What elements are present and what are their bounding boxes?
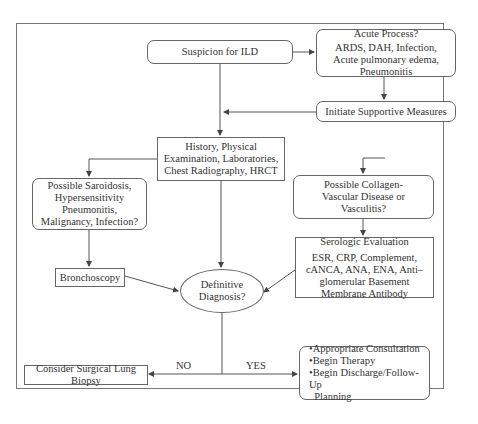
acute-process-node: Acute Process? ARDS, DAH, Infection, Acu… — [316, 29, 456, 77]
serologic-evaluation-node: Serologic Evaluation ESR, CRP, Complemen… — [295, 237, 434, 298]
serologic-evaluation-title: Serologic Evaluation — [320, 236, 408, 248]
acute-process-body: ARDS, DAH, Infection, Acute pulmonary ed… — [323, 42, 449, 78]
acute-process-title: Acute Process? — [354, 28, 418, 40]
bronchoscopy-node: Bronchoscopy — [55, 268, 125, 287]
suspicion-ild-label: Suspicion for ILD — [182, 46, 258, 58]
sarcoidosis-node: Possible Saroidosis, Hypersensitivity Pn… — [32, 178, 147, 230]
supportive-measures-node: Initiate Supportive Measures — [316, 101, 456, 122]
outcome-item-discharge: •Begin Discharge/Follow-Up — [309, 367, 429, 391]
edge-label-yes: YES — [246, 360, 266, 371]
collagen-vascular-node: Possible Collagen-Vascular Disease or Va… — [293, 175, 434, 219]
history-exam-node: History, Physical Examination, Laborator… — [157, 137, 285, 181]
edge-label-no: NO — [176, 360, 191, 371]
outcome-item-consultation: •Appropriate Consultation — [309, 343, 420, 355]
edge-history-collagen — [363, 158, 385, 173]
collagen-vascular-label: Possible Collagen-Vascular Disease or Va… — [308, 179, 419, 215]
history-exam-label: History, Physical Examination, Laborator… — [160, 141, 282, 177]
surgical-biopsy-label: Consider Surgical Lung Biopsy — [25, 363, 147, 387]
edge-bronchoscopy-definitive — [125, 276, 178, 291]
edge-serologic-definitive — [264, 270, 295, 292]
serologic-evaluation-body: ESR, CRP, Complement, cANCA, ANA, ENA, A… — [299, 252, 430, 300]
definitive-diagnosis-label: Definitive Diagnosis? — [195, 279, 249, 303]
sarcoidosis-label: Possible Saroidosis, Hypersensitivity Pn… — [39, 180, 140, 228]
outcome-node: •Appropriate Consultation •Begin Therapy… — [299, 346, 430, 400]
edge-history-sarcoid — [89, 159, 157, 176]
outcome-item-planning: Planning — [309, 391, 352, 403]
outcome-item-therapy: •Begin Therapy — [309, 355, 375, 367]
bronchoscopy-label: Bronchoscopy — [60, 272, 121, 284]
suspicion-ild-node: Suspicion for ILD — [147, 40, 293, 64]
definitive-diagnosis-node: Definitive Diagnosis? — [180, 269, 264, 313]
supportive-measures-label: Initiate Supportive Measures — [325, 106, 446, 118]
surgical-biopsy-node: Consider Surgical Lung Biopsy — [24, 365, 148, 385]
